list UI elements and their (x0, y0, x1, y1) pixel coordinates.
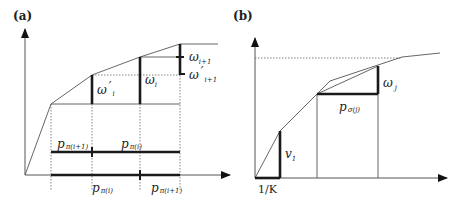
curve-b-lower (317, 66, 378, 94)
diagram-canvas: (a) ω′i ωi (0, 0, 461, 202)
label-p-pi-i1-bottom: pπ(i+1) (151, 181, 183, 195)
label-p-pi-i1-top: pπ(i+1) (57, 137, 89, 151)
label-v1: v1 (285, 147, 296, 163)
panel-a-label: (a) (13, 9, 32, 23)
panel-b: (b) ωj pσ(j) v1 1/K (233, 9, 447, 196)
label-omega-prime-i: ω′i (97, 80, 115, 98)
label-p-sigma-j: pσ(j) (339, 100, 360, 114)
label-omega-i1: ωi+1 (189, 50, 211, 66)
label-one-over-k: 1/K (258, 183, 278, 196)
label-p-pi-i-bottom: pπ(i) (92, 181, 113, 195)
label-p-pi-i-top: pπ(i) (121, 137, 142, 151)
label-omega-j: ωj (383, 76, 398, 92)
panel-b-label: (b) (233, 9, 253, 23)
label-omega-prime-i1: ω′i+1 (189, 65, 217, 84)
curve-b-upper (255, 53, 440, 178)
panel-a: (a) ω′i ωi (13, 9, 230, 195)
